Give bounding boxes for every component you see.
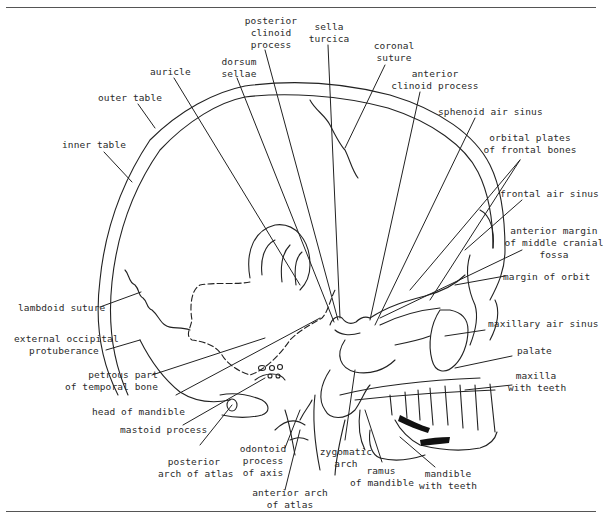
skull-drawing xyxy=(0,0,606,526)
label-palate: palate xyxy=(517,345,552,357)
label-coronal-suture: coronal suture xyxy=(366,40,422,64)
label-maxillary-air-sinus: maxillary air sinus xyxy=(488,318,599,330)
sella-turcica-shape xyxy=(330,317,370,325)
maxillary-sinus-shape xyxy=(430,310,468,371)
label-lambdoid-suture: lambdoid suture xyxy=(18,302,105,314)
label-orbital-plates: orbital plates of frontal bones xyxy=(480,132,580,156)
label-auricle: auricle xyxy=(150,66,191,78)
label-anterior-clinoid-process: anterior clinoid process xyxy=(390,68,480,92)
label-outer-table: outer table xyxy=(98,92,162,104)
label-external-occipital-protuberance: external occipital protuberance xyxy=(14,333,114,357)
label-margin-of-orbit: margin of orbit xyxy=(503,271,590,283)
outer-table-line xyxy=(98,83,505,395)
label-odontoid-process: odontoid process of axis xyxy=(238,443,288,479)
label-anterior-margin: anterior margin of middle cranial fossa xyxy=(502,225,606,261)
inner-table-line xyxy=(111,95,493,395)
lambdoid-suture-line xyxy=(125,270,190,330)
label-sphenoid-air-sinus: sphenoid air sinus xyxy=(438,106,543,118)
label-posterior-clinoid-process: posterior clinoid process xyxy=(236,15,306,51)
coronal-suture-line xyxy=(310,100,358,178)
label-inner-table: inner table xyxy=(62,139,126,151)
label-ramus-of-mandible: ramus of mandible xyxy=(350,465,412,489)
label-dorsum-sellae: dorsum sellae xyxy=(214,56,264,80)
dashed-outline xyxy=(188,282,335,375)
label-anterior-arch-of-atlas: anterior arch of atlas xyxy=(250,487,330,511)
label-maxilla-with-teeth: maxilla with teeth xyxy=(508,370,564,394)
label-mastoid-process: mastoid process xyxy=(120,424,207,436)
palate-line xyxy=(340,378,480,395)
label-head-of-mandible: head of mandible xyxy=(92,406,185,418)
label-posterior-arch-of-atlas: posterior arch of atlas xyxy=(158,456,230,480)
label-petrous-part: petrous part of temporal bone xyxy=(60,369,158,393)
label-mandible-with-teeth: mandible with teeth xyxy=(418,468,478,492)
maxilla-teeth xyxy=(390,384,495,432)
label-frontal-air-sinus: frontal air sinus xyxy=(500,188,599,200)
auricle-shape xyxy=(249,225,310,290)
label-sella-turcica: sella turcica xyxy=(306,21,352,45)
